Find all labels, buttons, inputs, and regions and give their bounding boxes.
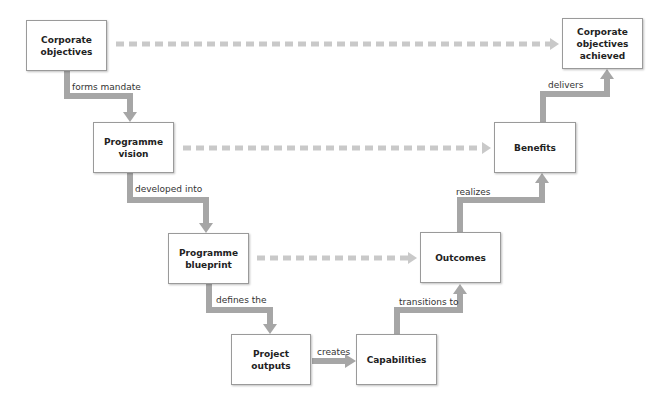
node-label: Programme vision [96, 136, 171, 160]
arrowhead-forms-mandate [123, 112, 137, 122]
node-outcomes[interactable]: Outcomes [420, 232, 501, 283]
edge-label-transitions-to: transitions to [399, 297, 458, 307]
node-corporate-objectives[interactable]: Corporate objectives [26, 20, 107, 71]
node-corporate-objectives-achieved[interactable]: Corporate objectives achieved [562, 18, 643, 69]
node-label: Project outputs [234, 348, 308, 372]
dashed-arrowhead-vision [482, 142, 491, 154]
node-label: Corporate objectives achieved [565, 26, 640, 62]
node-project-outputs[interactable]: Project outputs [231, 334, 311, 385]
connector-defines-the [209, 284, 270, 326]
node-programme-blueprint[interactable]: Programme blueprint [168, 233, 249, 284]
node-label: Programme blueprint [171, 247, 246, 271]
arrowhead-delivers [600, 69, 614, 79]
node-capabilities[interactable]: Capabilities [356, 334, 437, 385]
dashed-arrowhead-blueprint [408, 252, 417, 264]
edge-label-realizes: realizes [456, 187, 491, 197]
edge-label-forms-mandate: forms mandate [72, 82, 141, 92]
node-label: Corporate objectives [29, 34, 104, 58]
dashed-arrowhead-objectives [550, 38, 559, 50]
edge-label-defines-the: defines the [216, 295, 266, 305]
arrowhead-developed-into [199, 223, 213, 233]
edge-label-developed-into: developed into [135, 184, 202, 194]
connector-developed-into [130, 173, 206, 225]
node-benefits[interactable]: Benefits [494, 122, 576, 173]
edge-label-delivers: delivers [548, 80, 584, 90]
dashed-connectors [116, 38, 559, 264]
connector-forms-mandate [67, 71, 130, 114]
node-label: Capabilities [367, 354, 427, 366]
edge-label-creates: creates [317, 347, 350, 357]
arrowhead-transitions-to [453, 284, 467, 294]
node-label: Benefits [514, 142, 556, 154]
node-label: Outcomes [435, 252, 486, 264]
arrowhead-defines-the [263, 324, 277, 334]
node-programme-vision[interactable]: Programme vision [93, 122, 174, 173]
arrowhead-realizes [535, 173, 549, 183]
solid-connectors [67, 69, 614, 368]
